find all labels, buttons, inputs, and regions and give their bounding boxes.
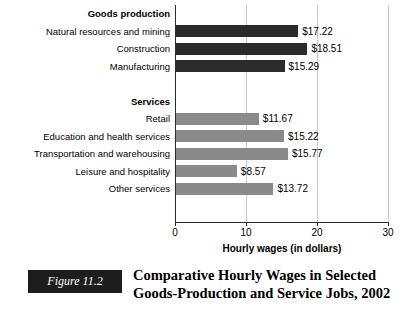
x-axis-title: Hourly wages (in dollars) xyxy=(175,243,389,254)
chart-row: Manufacturing$15.29 xyxy=(0,58,411,75)
chart-row: Retail$11.67 xyxy=(0,110,411,127)
bar-value-label: $15.77 xyxy=(288,145,323,162)
bar-value-label: $11.67 xyxy=(259,110,293,127)
bar-value-label: $17.22 xyxy=(298,23,333,40)
x-tick-10 xyxy=(246,222,247,226)
group-header-row: Services xyxy=(0,93,411,110)
x-tick-0 xyxy=(175,222,176,226)
category-label: Natural resources and mining xyxy=(0,23,170,40)
chart-row: Transportation and warehousing$15.77 xyxy=(0,145,411,162)
bar-value-label: $18.51 xyxy=(307,40,342,57)
category-label: Education and health services xyxy=(0,128,170,145)
bar xyxy=(176,165,237,177)
category-label: Other services xyxy=(0,180,170,197)
x-tick-label-0: 0 xyxy=(160,227,190,238)
bar xyxy=(176,130,284,142)
category-label: Construction xyxy=(0,40,170,57)
category-label: Leisure and hospitality xyxy=(0,163,170,180)
bar-value-label: $13.72 xyxy=(273,180,308,197)
bar xyxy=(176,43,307,55)
chart-row: Construction$18.51 xyxy=(0,40,411,57)
bar xyxy=(176,25,298,37)
figure-title: Comparative Hourly Wages in Selected Goo… xyxy=(133,266,408,302)
category-label: Transportation and warehousing xyxy=(0,145,170,162)
chart-row: Leisure and hospitality$8.57 xyxy=(0,163,411,180)
bar xyxy=(176,113,259,125)
chart-row: Education and health services$15.22 xyxy=(0,128,411,145)
group-header-label: Goods production xyxy=(0,5,170,22)
bar-value-label: $15.29 xyxy=(285,58,320,75)
bar-value-label: $15.22 xyxy=(284,128,319,145)
figure-number-box: Figure 11.2 xyxy=(28,270,122,293)
x-tick-20 xyxy=(317,222,318,226)
figure-title-line1: Comparative Hourly Wages in Selected xyxy=(133,266,408,284)
chart-row: Other services$13.72 xyxy=(0,180,411,197)
figure-caption: Figure 11.2 Comparative Hourly Wages in … xyxy=(0,266,411,315)
category-label: Manufacturing xyxy=(0,58,170,75)
chart-row: Natural resources and mining$17.22 xyxy=(0,23,411,40)
group-header-label: Services xyxy=(0,93,170,110)
category-label: Retail xyxy=(0,110,170,127)
spacer-row xyxy=(0,75,411,92)
x-tick-label-20: 20 xyxy=(302,227,332,238)
figure-number-label: Figure 11.2 xyxy=(28,270,122,293)
group-header-row: Goods production xyxy=(0,5,411,22)
x-tick-label-30: 30 xyxy=(373,227,403,238)
bar xyxy=(176,148,288,160)
bar xyxy=(176,60,285,72)
x-axis-line xyxy=(175,222,389,223)
bar-value-label: $8.57 xyxy=(237,163,266,180)
figure-title-line2: Goods-Production and Service Jobs, 2002 xyxy=(133,284,408,302)
x-tick-30 xyxy=(388,222,389,226)
bar xyxy=(176,183,273,195)
bar-chart: 0102030 Goods productionNatural resource… xyxy=(0,0,411,262)
x-tick-label-10: 10 xyxy=(231,227,261,238)
figure-container: 0102030 Goods productionNatural resource… xyxy=(0,0,411,315)
